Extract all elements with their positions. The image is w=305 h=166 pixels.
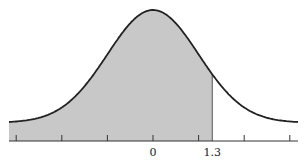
x-tick-label: 1.3 — [204, 146, 222, 159]
x-tick-label: 0 — [150, 146, 157, 159]
x-axis-labels: 01.3 — [150, 146, 222, 159]
normal-curve-chart: 01.3 — [0, 0, 305, 166]
